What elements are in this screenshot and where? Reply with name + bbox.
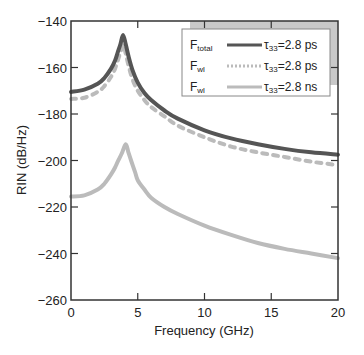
x-tick-label: 5 [134,305,141,320]
x-tick-label: 10 [197,305,211,320]
y-axis-title: RIN (dB/Hz) [14,125,29,195]
y-tick-label: −180 [38,107,67,122]
rin-chart: Ftotalτ33=2.8 psFwlτ33=2.8 psFwlτ33=2.8 … [0,0,364,355]
y-tick-label: −160 [38,61,67,76]
legend-shadow-band [190,21,338,29]
y-tick-label: −220 [38,200,67,215]
x-tick-label: 0 [67,305,74,320]
y-tick-label: −260 [38,293,67,308]
x-axis-title: Frequency (GHz) [154,323,254,338]
legend: Ftotalτ33=2.8 psFwlτ33=2.8 psFwlτ33=2.8 … [182,29,330,96]
y-tick-label: −200 [38,154,67,169]
x-tick-label: 20 [331,305,345,320]
y-tick-label: −240 [38,247,67,262]
x-tick-label: 15 [264,305,278,320]
legend-shadow-band-right [330,21,338,85]
y-tick-label: −140 [38,14,67,29]
